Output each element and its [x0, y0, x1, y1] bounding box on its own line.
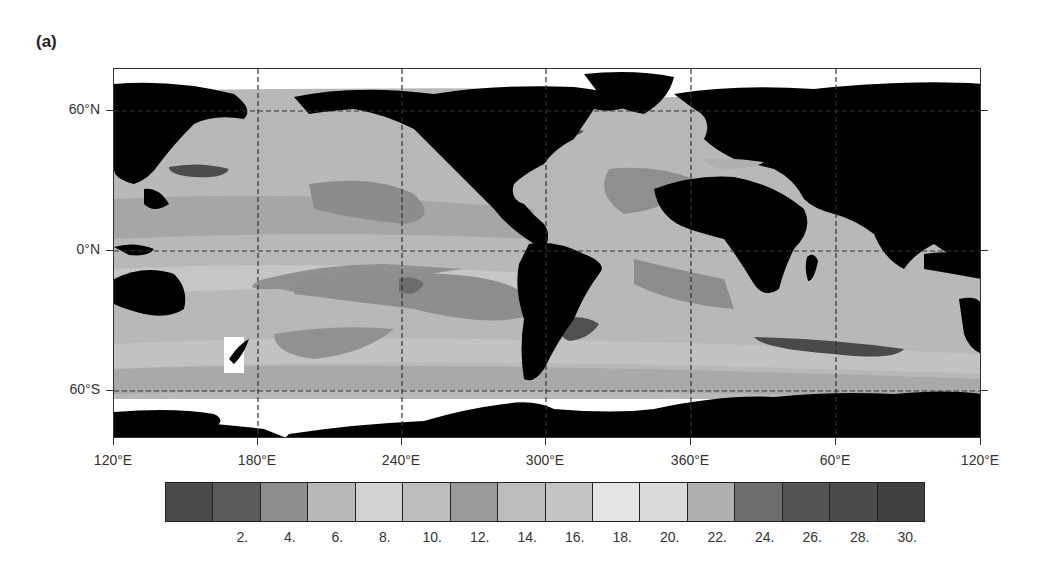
y-tick-0n [106, 250, 113, 251]
x-tick-360e [690, 438, 691, 445]
colorbar-box [688, 483, 735, 521]
colorbar-box [166, 483, 213, 521]
x-tick-label-60e: 60°E [795, 452, 875, 468]
x-tick-label-240e: 240°E [361, 452, 441, 468]
colorbar-level-label: 24. [745, 529, 785, 545]
x-tick-60e [835, 438, 836, 445]
colorbar-level-label: 22. [697, 529, 737, 545]
colorbar-level-label: 4. [270, 529, 310, 545]
colorbar-level-label: 14. [507, 529, 547, 545]
colorbar-level-label: 6. [317, 529, 357, 545]
colorbar-level-label: 28. [840, 529, 880, 545]
colorbar-level-label: 8. [365, 529, 405, 545]
colorbar-box [783, 483, 830, 521]
x-tick-label-120e: 120°E [73, 452, 153, 468]
colorbar-level-label: 30. [887, 529, 927, 545]
y-tick-60s [106, 390, 113, 391]
colorbar-box [546, 483, 593, 521]
colorbar-box [356, 483, 403, 521]
colorbar-box [640, 483, 687, 521]
colorbar-level-label: 26. [792, 529, 832, 545]
y-tick-label-60s: 60°S [40, 381, 100, 397]
x-tick-label-360e: 360°E [650, 452, 730, 468]
x-tick-120e-right [980, 438, 981, 445]
x-tick-300e [545, 438, 546, 445]
colorbar-box [403, 483, 450, 521]
colorbar-level-label: 18. [602, 529, 642, 545]
x-tick-label-180e: 180°E [217, 452, 297, 468]
x-tick-180e [257, 438, 258, 445]
x-tick-label-120e-right: 120°E [940, 452, 1020, 468]
colorbar [165, 482, 925, 522]
map-svg [114, 69, 981, 438]
y-tick-60s-right [981, 390, 988, 391]
map-plot-area [113, 68, 981, 438]
colorbar-box [451, 483, 498, 521]
colorbar-level-label: 10. [412, 529, 452, 545]
colorbar-box [213, 483, 260, 521]
y-tick-label-0n: 0°N [40, 241, 100, 257]
panel-label: (a) [36, 32, 57, 52]
colorbar-box [735, 483, 782, 521]
y-tick-60n [106, 110, 113, 111]
x-tick-240e [401, 438, 402, 445]
colorbar-box [830, 483, 877, 521]
y-tick-label-60n: 60°N [40, 101, 100, 117]
colorbar-level-label: 16. [555, 529, 595, 545]
x-tick-label-300e: 300°E [505, 452, 585, 468]
colorbar-box [498, 483, 545, 521]
colorbar-box [261, 483, 308, 521]
y-tick-60n-right [981, 110, 988, 111]
colorbar-box [308, 483, 355, 521]
colorbar-box [593, 483, 640, 521]
colorbar-level-label: 12. [460, 529, 500, 545]
colorbar-box [878, 483, 924, 521]
colorbar-level-label: 2. [222, 529, 262, 545]
x-tick-120e [113, 438, 114, 445]
colorbar-level-label: 20. [650, 529, 690, 545]
y-tick-0n-right [981, 250, 988, 251]
